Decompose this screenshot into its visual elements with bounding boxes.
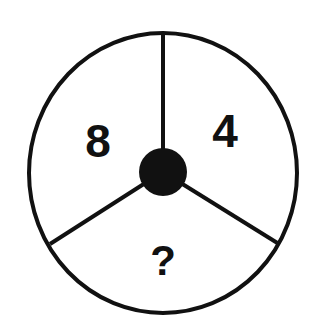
number-wheel-puzzle: 8 4 ? bbox=[0, 0, 324, 331]
spoke-lower-left bbox=[50, 180, 150, 244]
hub-circle bbox=[139, 148, 187, 196]
spoke-lower-right bbox=[176, 180, 279, 244]
segment-value-bottom: ? bbox=[150, 237, 176, 284]
segment-value-upper-right: 4 bbox=[212, 105, 238, 157]
segment-value-upper-left: 8 bbox=[85, 115, 111, 167]
wheel-diagram: 8 4 ? bbox=[0, 0, 324, 331]
